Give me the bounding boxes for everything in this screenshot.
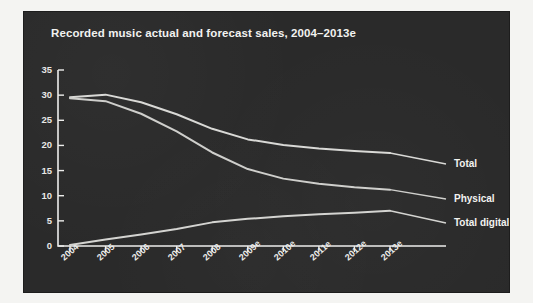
line-chart-plot: [24, 12, 509, 292]
series-line-physical: [70, 98, 390, 190]
leader-line-total-digital: [390, 211, 446, 223]
leader-line-physical: [390, 190, 446, 199]
figure-container: Recorded music actual and forecast sales…: [0, 0, 533, 303]
leader-line-total: [390, 153, 446, 164]
chart-panel: Recorded music actual and forecast sales…: [24, 12, 509, 292]
series-line-total: [70, 95, 390, 153]
series-line-total-digital: [70, 211, 390, 245]
